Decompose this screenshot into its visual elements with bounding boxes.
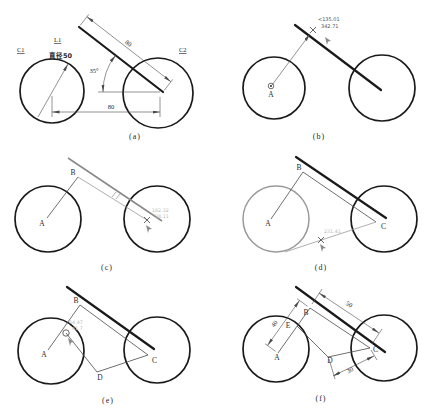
line-l1 xyxy=(296,287,385,352)
label-point-a: A xyxy=(39,219,45,228)
label-l1: L1 xyxy=(54,36,61,43)
tooltip-length: 342.71 xyxy=(321,23,339,29)
label-point-b: B xyxy=(73,296,78,305)
label-point-a: A xyxy=(268,90,274,99)
dim-50-label: 50 xyxy=(345,299,354,308)
tooltip-line2: 41.7 xyxy=(72,326,83,331)
tooltip: 231.41 xyxy=(324,229,341,234)
dim-40-label: 40 xyxy=(269,319,278,328)
caption-e: (e) xyxy=(102,396,114,405)
panel-b: A <135.01 342.71 (b) xyxy=(243,16,415,141)
dim-line-length xyxy=(87,17,171,82)
label-point-a: A xyxy=(274,353,280,362)
caption-b: (b) xyxy=(313,132,325,141)
point-a-dot xyxy=(270,85,272,87)
left-circle xyxy=(15,186,81,252)
line-b-c xyxy=(303,172,376,222)
line-l1 xyxy=(67,287,154,349)
right-circle xyxy=(124,317,190,383)
snap-cross-icon xyxy=(310,27,316,33)
caption-f: (f) xyxy=(316,394,327,403)
label-c2: C2 xyxy=(179,46,187,53)
label-c1: C1 xyxy=(17,46,25,53)
angle-35-label: 35° xyxy=(89,67,99,74)
label-point-b: B xyxy=(70,168,75,177)
label-point-d: D xyxy=(97,373,103,382)
label-point-a: A xyxy=(265,219,271,228)
caption-a: (a) xyxy=(129,132,141,141)
ext-line xyxy=(164,79,173,90)
figure-canvas: 80 35° 80 C1 C2 L1 直径50 (a) A <135.01 34… xyxy=(0,0,435,418)
cursor-icon xyxy=(320,244,326,252)
angle-arc xyxy=(103,55,116,92)
tooltip-angle: <135.01 xyxy=(318,16,340,22)
snap-cross-icon xyxy=(144,217,150,223)
parallel-marker-icon xyxy=(112,192,120,199)
cursor-icon xyxy=(146,225,152,233)
label-point-b: B xyxy=(296,163,301,172)
left-circle xyxy=(243,57,305,119)
label-point-c: C xyxy=(381,222,386,231)
panel-d: A B C 231.41 (d) xyxy=(243,157,417,272)
ext-line xyxy=(372,329,382,344)
snap-cross-icon xyxy=(318,237,324,243)
label-point-a: A xyxy=(41,350,47,359)
right-circle xyxy=(351,186,417,252)
left-circle-gray xyxy=(243,186,309,252)
offset-line-b xyxy=(78,177,147,220)
line-c-d xyxy=(328,348,370,357)
panel-a: 80 35° 80 C1 C2 L1 直径50 (a) xyxy=(17,14,193,141)
tooltip-line1: 182.32 xyxy=(152,208,169,213)
label-point-c: C xyxy=(152,356,157,365)
tooltip-line2: 38.11 xyxy=(155,214,169,219)
diameter-arrow xyxy=(38,64,68,117)
label-point-d: D xyxy=(327,356,333,365)
cursor-icon xyxy=(325,37,331,45)
label-point-b: B xyxy=(303,308,308,317)
construction-figure: 80 35° 80 C1 C2 L1 直径50 (a) A <135.01 34… xyxy=(0,0,435,418)
label-diameter-50: 直径50 xyxy=(49,51,73,60)
ext-line xyxy=(80,14,89,25)
right-circle xyxy=(351,315,417,381)
panel-f: 40 50 30 A B C D E (f) xyxy=(243,287,417,403)
line-c-extend xyxy=(285,222,376,252)
line-c-d xyxy=(97,355,148,372)
dim-80-distance: 80 xyxy=(108,103,115,110)
right-circle xyxy=(349,55,415,121)
ext-line xyxy=(265,344,276,352)
ext-line xyxy=(297,299,308,307)
label-point-c: C xyxy=(373,345,378,354)
right-circle xyxy=(124,186,190,252)
pick-arrow xyxy=(272,34,310,85)
caption-d: (d) xyxy=(315,263,327,272)
caption-c: (c) xyxy=(101,263,113,272)
line-b-c xyxy=(80,305,148,355)
panel-c: A B 182.32 38.11 (c) xyxy=(15,158,190,272)
line-d-e xyxy=(297,326,328,357)
line-b-c xyxy=(310,308,370,348)
line-l1-gray xyxy=(68,158,162,221)
tooltip-line1: 64.47 xyxy=(69,320,83,325)
label-point-e: E xyxy=(286,321,291,330)
panel-e: A B C D 64.47 41.7 (e) xyxy=(18,287,190,405)
